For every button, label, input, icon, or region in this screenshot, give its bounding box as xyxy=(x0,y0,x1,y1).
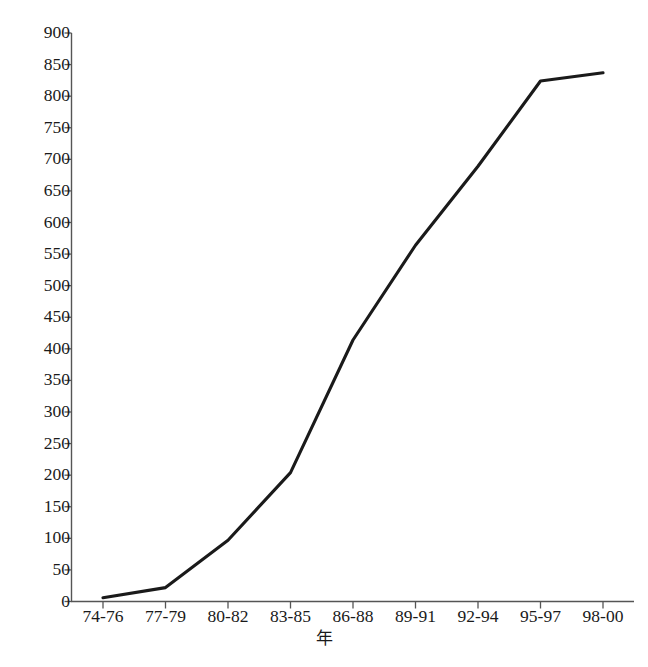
x-tick-label: 98-00 xyxy=(558,607,648,626)
x-axis-title: 年 xyxy=(0,630,648,649)
x-axis-tick-labels: 74-7677-7980-8283-8586-8889-9192-9495-97… xyxy=(0,0,648,667)
line-chart: 0501001502002503003504004505005506006507… xyxy=(0,0,648,667)
